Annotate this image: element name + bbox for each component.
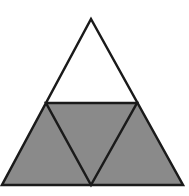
subdivided-triangle-diagram — [0, 0, 189, 196]
top-triangle — [46, 19, 137, 103]
